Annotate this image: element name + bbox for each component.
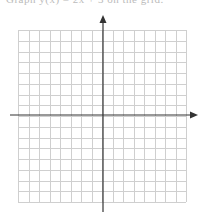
coordinate-plane bbox=[0, 0, 204, 219]
x-axis bbox=[10, 112, 198, 119]
y-axis bbox=[100, 15, 107, 212]
y-axis-arrow-icon bbox=[100, 15, 107, 23]
grid-lines bbox=[18, 30, 187, 203]
x-axis-arrow-icon bbox=[190, 112, 198, 119]
